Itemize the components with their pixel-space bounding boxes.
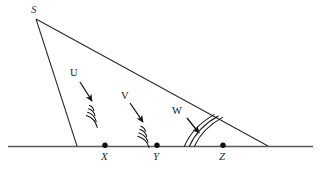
point-dot-y: [154, 143, 159, 148]
label-wave-w: W: [172, 106, 182, 117]
label-apex-s: S: [31, 4, 37, 15]
wave-diagram-figure: S U V W X Y Z: [0, 0, 322, 171]
label-wave-u: U: [70, 68, 78, 79]
label-wave-v: V: [121, 91, 129, 102]
point-dot-z: [220, 143, 225, 148]
label-point-z: Z: [219, 151, 225, 162]
wavefront-arcs-u: [86, 106, 97, 128]
pointer-arrow-v: [130, 103, 143, 122]
wavefront-arcs-v: [138, 126, 149, 147]
diagram-canvas: [0, 0, 322, 171]
pointer-arrow-w: [187, 118, 199, 133]
pointer-arrow-u: [80, 82, 92, 101]
label-point-x: X: [101, 151, 108, 162]
wavefront-arcs-w: [185, 115, 223, 146]
point-dot-x: [102, 143, 107, 148]
label-point-y: Y: [153, 151, 159, 162]
